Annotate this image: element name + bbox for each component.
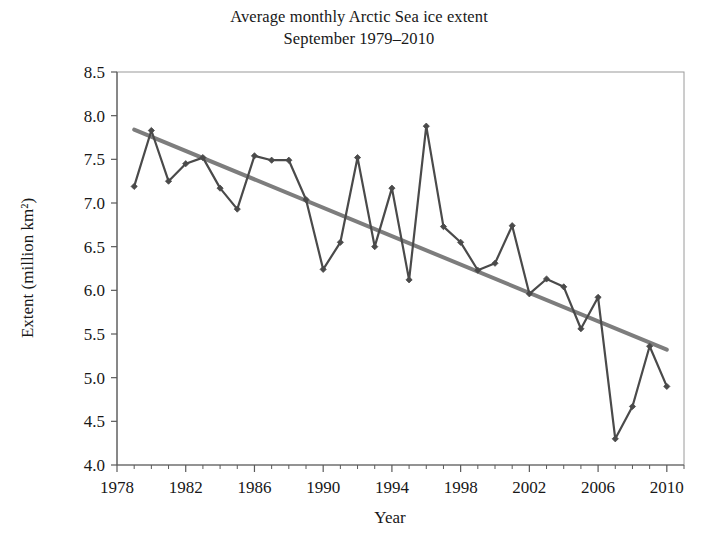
y-tick-label: 4.5 [84, 412, 105, 431]
chart-title-line-1: Average monthly Arctic Sea ice extent [0, 6, 718, 28]
y-tick-label: 6.0 [84, 281, 105, 300]
data-point-markers: 1979: 7.191980: 7.831981: 7.251982: 7.45… [131, 123, 670, 442]
axes [117, 72, 684, 465]
y-axis-ticks: 4.04.55.05.56.06.57.07.58.08.5 [84, 63, 117, 475]
y-axis-title: Extent (million km²) [18, 198, 37, 338]
y-tick-label: 4.0 [84, 456, 105, 475]
y-tick-label: 7.0 [84, 194, 105, 213]
x-tick-label: 2002 [512, 478, 546, 497]
data-point-marker: 1992: 7.52 [354, 154, 360, 160]
x-tick-label: 1986 [237, 478, 271, 497]
x-tick-label: 1990 [306, 478, 340, 497]
data-point-marker: 1993: 6.5 [372, 244, 378, 250]
data-point-marker: 1979: 7.19 [131, 183, 137, 189]
data-point-marker: 1988: 7.49 [286, 157, 292, 163]
y-tick-label: 6.5 [84, 238, 105, 257]
data-point-marker: 1994: 7.17 [389, 185, 395, 191]
chart-title: Average monthly Arctic Sea ice extent Se… [0, 6, 718, 50]
data-point-marker: 1996: 7.88 [423, 123, 429, 129]
x-tick-label: 1982 [169, 478, 203, 497]
x-tick-label: 2006 [581, 478, 615, 497]
y-tick-label: 7.5 [84, 150, 105, 169]
x-tick-label: 1994 [375, 478, 410, 497]
data-line-series [134, 126, 667, 439]
chart-title-line-2: September 1979–2010 [0, 28, 718, 50]
y-tick-label: 5.5 [84, 325, 105, 344]
y-tick-label: 5.0 [84, 369, 105, 388]
chart-figure: Average monthly Arctic Sea ice extent Se… [0, 0, 718, 546]
data-point-marker: 1986: 7.54 [251, 153, 257, 159]
line-chart-plot: Extent (million km²) Year 4.04.55.05.56.… [0, 0, 718, 546]
x-tick-label: 1998 [444, 478, 478, 497]
x-tick-label: 2010 [650, 478, 684, 497]
data-point-marker: 2010: 4.9 [664, 383, 670, 389]
x-axis-ticks: 197819821986199019941998200220062010 [100, 465, 684, 497]
data-point-marker: 1995: 6.12 [406, 277, 412, 283]
x-tick-label: 1978 [100, 478, 134, 497]
y-tick-label: 8.5 [84, 63, 105, 82]
y-tick-label: 8.0 [84, 107, 105, 126]
data-point-marker: 1980: 7.83 [148, 127, 154, 133]
data-point-marker: 1987: 7.49 [269, 157, 275, 163]
x-axis-title: Year [374, 508, 406, 527]
